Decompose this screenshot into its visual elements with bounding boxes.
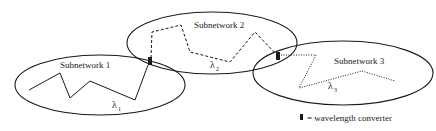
lambda-3-index: 3 [334,87,337,93]
wavelength-converter-2-icon [276,52,280,60]
lambda-2-index: 2 [216,66,219,72]
wavelength-converter-diagram: Subnetwork 1 Subnetwork 2 Subnetwork 3 λ… [0,0,436,131]
lambda-1-symbol: λ [112,99,117,110]
subnetwork-3-label: Subnetwork 3 [334,56,385,66]
lambda-1-index: 1 [118,106,121,112]
legend-converter-icon [300,114,303,120]
lambda-3-symbol: λ [328,80,333,91]
wavelength-converter-1-icon [148,57,152,65]
lightpath-lambda-1 [29,65,148,100]
subnetwork-1-label: Subnetwork 1 [60,60,110,70]
subnetwork-2-label: Subnetwork 2 [194,20,244,30]
lambda-2-symbol: λ [210,59,215,70]
lightpath-lambda-2 [151,25,275,62]
subnetwork-3-ellipse [253,41,433,105]
legend-text: = wavelength converter [307,113,392,123]
